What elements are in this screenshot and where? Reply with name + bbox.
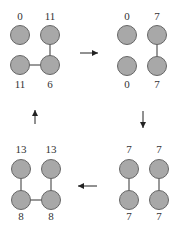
node-br <box>42 191 61 210</box>
node-br <box>41 56 60 75</box>
node-tl <box>12 160 31 179</box>
arrowhead-icon <box>78 183 84 189</box>
node-tl <box>11 26 30 45</box>
node-label-br: 7 <box>154 78 160 90</box>
panel-top-left: 011116 <box>11 10 60 90</box>
node-label-tr: 11 <box>45 10 56 22</box>
arrowhead-icon <box>140 122 146 128</box>
node-label-br: 8 <box>48 210 54 222</box>
node-br <box>148 57 167 76</box>
panel-top-right: 0707 <box>118 10 167 90</box>
arrow-left <box>78 183 97 189</box>
node-bl <box>11 56 30 75</box>
node-label-bl: 0 <box>124 78 130 90</box>
graph-cycle-diagram: 01111607077777131388 <box>0 0 178 233</box>
node-tl <box>118 26 137 45</box>
node-label-bl: 7 <box>126 210 132 222</box>
node-label-tr: 13 <box>46 143 58 155</box>
node-bl <box>120 191 139 210</box>
node-label-bl: 8 <box>18 210 24 222</box>
node-label-tl: 0 <box>124 10 130 22</box>
panel-bottom-left: 131388 <box>12 143 61 222</box>
node-tr <box>42 160 61 179</box>
node-label-tl: 0 <box>17 10 23 22</box>
node-label-tr: 7 <box>156 143 162 155</box>
node-br <box>150 191 169 210</box>
node-tl <box>120 160 139 179</box>
node-label-bl: 11 <box>15 78 26 90</box>
panel-bottom-right: 7777 <box>120 143 169 222</box>
node-label-tl: 7 <box>126 143 132 155</box>
node-bl <box>118 57 137 76</box>
node-label-tl: 13 <box>16 143 28 155</box>
arrow-down <box>140 111 146 128</box>
node-label-br: 6 <box>47 78 53 90</box>
node-bl <box>12 191 31 210</box>
node-tr <box>148 26 167 45</box>
node-tr <box>41 26 60 45</box>
node-tr <box>150 160 169 179</box>
node-label-tr: 7 <box>154 10 160 22</box>
arrow-up <box>32 110 38 124</box>
arrowhead-icon <box>32 110 38 116</box>
arrow-right <box>80 50 98 56</box>
arrowhead-icon <box>92 50 98 56</box>
node-label-br: 7 <box>156 210 162 222</box>
